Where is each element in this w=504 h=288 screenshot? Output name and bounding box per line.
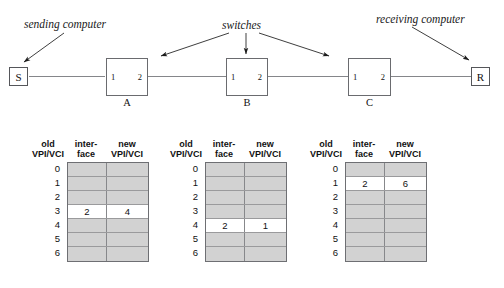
table-row[interactable]	[206, 177, 286, 191]
table-c-row-label: 6	[326, 246, 338, 260]
table-b-row-label: 3	[186, 204, 198, 218]
table-c-row-label: 3	[326, 204, 338, 218]
table-row[interactable]	[206, 247, 286, 261]
table-c-cell-new[interactable]	[385, 191, 426, 204]
table-c-cell-interface[interactable]	[346, 219, 385, 232]
table-c-cell-new[interactable]	[385, 205, 426, 218]
table-row[interactable]	[206, 191, 286, 205]
table-a-cell-interface[interactable]	[68, 233, 107, 246]
table-c-cell-new[interactable]	[385, 233, 426, 246]
table-a-cell-interface[interactable]: 2	[68, 205, 107, 218]
link-s-to-a	[29, 76, 105, 77]
table-row[interactable]	[68, 191, 148, 205]
table-b-cell-new[interactable]	[245, 205, 286, 218]
table-row[interactable]	[346, 219, 426, 233]
table-b-row-label: 1	[186, 176, 198, 190]
table-a-cell-interface[interactable]	[68, 247, 107, 261]
table-a-cell-new[interactable]	[107, 163, 148, 176]
table-b-row-label: 5	[186, 232, 198, 246]
receiver-node: R	[471, 67, 490, 86]
table-b-cell-interface[interactable]	[206, 163, 245, 176]
atm-switching-diagram: sending computer switches receiving comp…	[0, 0, 504, 288]
switch-c-label: C	[348, 97, 391, 108]
table-b-cell-interface[interactable]	[206, 233, 245, 246]
table-row[interactable]	[68, 247, 148, 261]
arrow-to-receiver	[412, 27, 469, 60]
table-a-cell-new[interactable]	[107, 233, 148, 246]
table-b-cell-interface[interactable]	[206, 205, 245, 218]
switch-b-box: 1 2	[226, 58, 268, 96]
table-c-cell-interface[interactable]	[346, 205, 385, 218]
table-row[interactable]: 2 1	[206, 219, 286, 233]
table-a-cell-new[interactable]	[107, 247, 148, 261]
callout-receiving-computer: receiving computer	[376, 13, 465, 25]
table-b-header-new: new VPI/VCI	[244, 140, 286, 159]
link-b-to-c	[268, 76, 348, 77]
table-row[interactable]	[206, 163, 286, 177]
table-c-cell-new[interactable]	[385, 219, 426, 232]
table-row[interactable]: 2 6	[346, 177, 426, 191]
table-row[interactable]	[206, 233, 286, 247]
table-b-cell-interface[interactable]	[206, 177, 245, 190]
switch-a-box: 1 2	[106, 58, 148, 96]
table-b-cell-interface[interactable]	[206, 191, 245, 204]
table-a-cell-new[interactable]	[107, 219, 148, 232]
table-row[interactable]	[68, 233, 148, 247]
switch-a-label: A	[106, 97, 148, 108]
link-c-to-r	[391, 76, 471, 77]
table-c-cell-new[interactable]	[385, 163, 426, 176]
table-c-cell-interface[interactable]: 2	[346, 177, 385, 190]
table-a-row-label: 0	[48, 162, 60, 176]
table-a-cell-new[interactable]	[107, 191, 148, 204]
table-row[interactable]	[346, 247, 426, 261]
table-b-cell-new[interactable]	[245, 191, 286, 204]
table-a-cell-interface[interactable]	[68, 191, 107, 204]
table-c-cell-new[interactable]	[385, 247, 426, 261]
table-c-header-new: new VPI/VCI	[384, 140, 426, 159]
table-c-cell-interface[interactable]	[346, 191, 385, 204]
table-a-cell-interface[interactable]	[68, 163, 107, 176]
table-b-row-label: 0	[186, 162, 198, 176]
table-c-cell-interface[interactable]	[346, 247, 385, 261]
table-b-header-old: old VPI/VCI	[168, 140, 204, 159]
table-b-cell-new[interactable]	[245, 177, 286, 190]
table-a-row-label: 1	[48, 176, 60, 190]
table-a-row-labels: 0 1 2 3 4 5 6	[48, 162, 60, 260]
table-a-cell-interface[interactable]	[68, 219, 107, 232]
table-a-header-old: old VPI/VCI	[30, 140, 66, 159]
table-c-cell-new[interactable]: 6	[385, 177, 426, 190]
table-b-cell-interface[interactable]	[206, 247, 245, 261]
table-row[interactable]	[68, 219, 148, 233]
table-row[interactable]	[346, 163, 426, 177]
table-row[interactable]	[346, 191, 426, 205]
table-c-row-label: 2	[326, 190, 338, 204]
table-c-cell-interface[interactable]	[346, 233, 385, 246]
table-b-cell-new[interactable]	[245, 233, 286, 246]
table-c-row-labels: 0 1 2 3 4 5 6	[326, 162, 338, 260]
table-c-row-label: 0	[326, 162, 338, 176]
switch-a-port-1: 1	[111, 72, 115, 82]
callout-switches: switches	[222, 19, 261, 31]
table-a-cell-new[interactable]	[107, 177, 148, 190]
table-row[interactable]	[346, 233, 426, 247]
table-a-cell-interface[interactable]	[68, 177, 107, 190]
table-b-cell-interface[interactable]: 2	[206, 219, 245, 232]
switch-b-port-2: 2	[258, 72, 262, 82]
table-b-cell-new[interactable]	[245, 247, 286, 261]
table-a-cell-new[interactable]: 4	[107, 205, 148, 218]
table-row[interactable]	[68, 177, 148, 191]
table-b-grid: 2 1	[205, 162, 287, 262]
table-c-row-label: 5	[326, 232, 338, 246]
table-a-row-label: 6	[48, 246, 60, 260]
table-row[interactable]	[68, 163, 148, 177]
table-row[interactable]	[346, 205, 426, 219]
table-a-row-label: 3	[48, 204, 60, 218]
table-b-header-interface: inter- face	[206, 140, 242, 159]
table-row[interactable]	[206, 205, 286, 219]
table-b-cell-new[interactable]: 1	[245, 219, 286, 232]
table-c-cell-interface[interactable]	[346, 163, 385, 176]
sender-node: S	[9, 67, 28, 86]
table-b-cell-new[interactable]	[245, 163, 286, 176]
table-row[interactable]: 2 4	[68, 205, 148, 219]
table-a-header-new: new VPI/VCI	[106, 140, 148, 159]
